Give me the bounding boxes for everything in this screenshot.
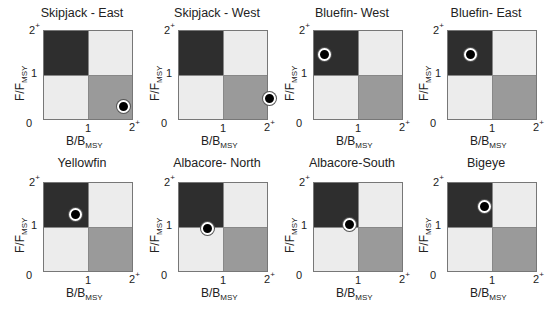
y-tick-2plus: 2+ bbox=[299, 174, 310, 188]
y-tick-1: 1 bbox=[435, 67, 441, 79]
quadrant-healthy bbox=[88, 227, 132, 271]
y-tick-1: 1 bbox=[301, 219, 307, 231]
quadrant-overfishing bbox=[358, 31, 402, 75]
stock-status-point bbox=[263, 92, 276, 105]
kobe-panel-bigeye: Bigeye F/FMSY 2+ 1 0 1 2+ B/BMSY bbox=[417, 154, 553, 314]
plot-area bbox=[447, 30, 537, 120]
panel-title: Yellowfin bbox=[13, 156, 151, 170]
x-axis-label: B/BMSY bbox=[66, 286, 103, 300]
quadrant-overfished-overfishing bbox=[44, 31, 88, 75]
y-tick-1: 1 bbox=[31, 219, 37, 231]
plot-area bbox=[178, 182, 268, 272]
quadrant-healthy bbox=[492, 227, 536, 271]
quadrant-overfishing bbox=[88, 183, 132, 227]
y-axis-label: F/FMSY bbox=[417, 218, 431, 253]
x-tick-2plus: 2+ bbox=[129, 119, 140, 133]
kobe-panel-albacore-south: Albacore-South F/FMSY 2+ 1 0 1 2+ B/BMSY bbox=[283, 154, 421, 314]
quadrant-overfished bbox=[44, 227, 88, 271]
kobe-panel-skipjack-east: Skipjack - East F/FMSY 2+ 1 0 1 2+ B/BMS… bbox=[13, 2, 151, 162]
stock-status-point bbox=[117, 100, 130, 113]
x-tick-1: 1 bbox=[489, 274, 495, 286]
panel-title: Skipjack - East bbox=[13, 6, 151, 20]
origin-tick-0: 0 bbox=[26, 117, 32, 129]
quadrant-overfishing bbox=[223, 31, 267, 75]
quadrant-overfished-overfishing bbox=[179, 183, 223, 227]
x-tick-1: 1 bbox=[220, 274, 226, 286]
quadrant-overfished bbox=[448, 75, 492, 119]
y-tick-1: 1 bbox=[166, 219, 172, 231]
origin-tick-0: 0 bbox=[296, 117, 302, 129]
x-axis-label: B/BMSY bbox=[336, 134, 373, 148]
x-axis-label: B/BMSY bbox=[66, 134, 103, 148]
origin-tick-0: 0 bbox=[26, 269, 32, 281]
quadrant-overfished bbox=[314, 75, 358, 119]
panel-title: Albacore- North bbox=[148, 156, 286, 170]
y-axis-label: F/FMSY bbox=[13, 66, 27, 101]
quadrant-overfished-overfishing bbox=[44, 183, 88, 227]
x-tick-2plus: 2+ bbox=[264, 271, 275, 285]
y-tick-1: 1 bbox=[166, 67, 172, 79]
stock-status-point bbox=[478, 200, 491, 213]
quadrant-overfished bbox=[448, 227, 492, 271]
x-axis-label: B/BMSY bbox=[470, 134, 507, 148]
y-tick-2plus: 2+ bbox=[164, 174, 175, 188]
y-tick-2plus: 2+ bbox=[29, 22, 40, 36]
origin-tick-0: 0 bbox=[430, 117, 436, 129]
plot-area bbox=[313, 182, 403, 272]
kobe-panel-skipjack-west: Skipjack - West F/FMSY 2+ 1 0 1 2+ B/BMS… bbox=[148, 2, 286, 162]
x-tick-1: 1 bbox=[355, 274, 361, 286]
x-tick-2plus: 2+ bbox=[533, 119, 544, 133]
kobe-panel-albacore-north: Albacore- North F/FMSY 2+ 1 0 1 2+ B/BMS… bbox=[148, 154, 286, 314]
x-tick-1: 1 bbox=[489, 122, 495, 134]
y-tick-2plus: 2+ bbox=[164, 22, 175, 36]
y-axis-label: F/FMSY bbox=[13, 218, 27, 253]
y-tick-2plus: 2+ bbox=[299, 22, 310, 36]
x-tick-2plus: 2+ bbox=[264, 119, 275, 133]
y-tick-2plus: 2+ bbox=[433, 174, 444, 188]
quadrant-overfishing bbox=[358, 183, 402, 227]
x-tick-2plus: 2+ bbox=[129, 271, 140, 285]
quadrant-overfished-overfishing bbox=[179, 31, 223, 75]
origin-tick-0: 0 bbox=[161, 269, 167, 281]
plot-area bbox=[43, 182, 133, 272]
quadrant-overfishing bbox=[492, 31, 536, 75]
panel-title: Bigeye bbox=[417, 156, 553, 170]
plot-area bbox=[447, 182, 537, 272]
plot-area bbox=[313, 30, 403, 120]
y-tick-1: 1 bbox=[435, 219, 441, 231]
quadrant-healthy bbox=[358, 227, 402, 271]
x-tick-1: 1 bbox=[85, 122, 91, 134]
origin-tick-0: 0 bbox=[296, 269, 302, 281]
quadrant-overfished bbox=[179, 227, 223, 271]
y-axis-label: F/FMSY bbox=[283, 218, 297, 253]
panel-title: Albacore-South bbox=[283, 156, 421, 170]
x-tick-1: 1 bbox=[355, 122, 361, 134]
quadrant-overfished bbox=[314, 227, 358, 271]
y-axis-label: F/FMSY bbox=[417, 66, 431, 101]
quadrant-healthy bbox=[223, 75, 267, 119]
y-axis-label: F/FMSY bbox=[148, 66, 162, 101]
stock-status-point bbox=[343, 218, 356, 231]
x-axis-label: B/BMSY bbox=[336, 286, 373, 300]
x-tick-2plus: 2+ bbox=[399, 119, 410, 133]
stock-status-point bbox=[69, 208, 82, 221]
plot-area bbox=[178, 30, 268, 120]
x-tick-1: 1 bbox=[85, 274, 91, 286]
panel-title: Skipjack - West bbox=[148, 6, 286, 20]
quadrant-overfishing bbox=[492, 183, 536, 227]
y-tick-1: 1 bbox=[301, 67, 307, 79]
y-axis-label: F/FMSY bbox=[148, 218, 162, 253]
quadrant-healthy bbox=[223, 227, 267, 271]
quadrant-overfished bbox=[179, 75, 223, 119]
x-tick-1: 1 bbox=[220, 122, 226, 134]
x-axis-label: B/BMSY bbox=[201, 134, 238, 148]
kobe-panel-yellowfin: Yellowfin F/FMSY 2+ 1 0 1 2+ B/BMSY bbox=[13, 154, 151, 314]
x-tick-2plus: 2+ bbox=[399, 271, 410, 285]
x-axis-label: B/BMSY bbox=[201, 286, 238, 300]
quadrant-overfishing bbox=[88, 31, 132, 75]
y-tick-2plus: 2+ bbox=[29, 174, 40, 188]
quadrant-overfishing bbox=[223, 183, 267, 227]
panel-title: Bluefin- East bbox=[417, 6, 553, 20]
y-tick-1: 1 bbox=[31, 67, 37, 79]
y-axis-label: F/FMSY bbox=[283, 66, 297, 101]
